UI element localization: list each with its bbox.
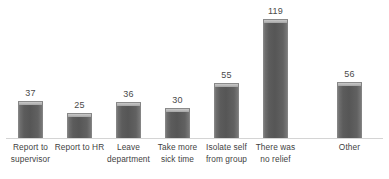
bar[interactable] [214,83,239,138]
category-label-line2: from group [199,154,254,166]
category-label-line1: Other [339,142,360,152]
category-label-line1: Leave [117,142,140,152]
bar-slot: 30 [153,0,202,138]
category-label: Take more sick time [150,142,205,165]
bar-slot: 36 [104,0,153,138]
bar-value-label: 25 [55,100,104,111]
category-label-line2: supervisor [3,154,58,166]
bar-value-label: 37 [6,88,55,99]
category-label: Report to supervisor [3,142,58,165]
category-label-line1: Report to HR [55,142,105,152]
category-label-line1: Isolate self [206,142,247,152]
category-label: Other [322,142,377,154]
bar-slot: 119 [251,0,300,138]
category-label-line2: no relief [248,154,303,166]
bar-value-label: 119 [251,6,300,17]
category-label-line1: Take more [158,142,198,152]
bar[interactable] [263,19,288,138]
bar[interactable] [67,113,92,138]
category-label: There was no relief [248,142,303,165]
plot-area: 37 25 36 30 55 119 56 [0,0,389,138]
bar-value-label: 56 [325,69,374,80]
bar-chart: 37 25 36 30 55 119 56 [0,0,389,179]
bar-value-label: 30 [153,95,202,106]
category-label: Isolate self from group [199,142,254,165]
bar-slot: 25 [55,0,104,138]
bar-value-label: 36 [104,89,153,100]
category-label: Report to HR [52,142,107,154]
bar-slot: 37 [6,0,55,138]
category-label: Leave department [101,142,156,165]
bar-slot: 55 [202,0,251,138]
bar-slot: 56 [325,0,374,138]
bar[interactable] [116,102,141,138]
bar[interactable] [165,108,190,138]
x-axis-line [6,138,383,139]
bar-value-label: 55 [202,70,251,81]
bar[interactable] [18,101,43,138]
category-label-line2: department [101,154,156,166]
category-label-line1: Report to [13,142,48,152]
category-label-line2: sick time [150,154,205,166]
x-axis-category-labels: Report to supervisor Report to HR Leave … [0,142,389,179]
category-label-line1: There was [256,142,296,152]
bar[interactable] [337,82,362,138]
